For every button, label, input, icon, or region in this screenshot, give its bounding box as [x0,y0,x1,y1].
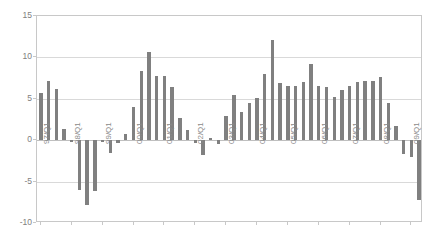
bar [263,74,266,140]
y-axis-ticks [0,15,40,222]
bar [93,140,96,191]
bar [340,90,343,141]
bar [232,95,235,141]
bar [217,140,220,144]
bar [209,138,212,140]
bar [363,81,366,141]
bar [271,40,274,140]
bar [186,130,189,140]
bar [402,140,405,154]
bar [85,140,88,205]
y-axis-tick-mark [33,222,36,223]
x-axis-tick-mark [71,222,72,225]
bar [240,112,243,140]
bar [70,140,73,142]
bar [302,82,305,140]
bar [155,76,158,140]
bar [109,140,112,152]
bar [255,98,258,140]
x-axis-tick-mark [102,222,103,225]
bar [163,76,166,141]
bar [147,52,150,141]
x-axis-tick-mark [133,222,134,225]
bar [248,103,251,140]
bar [116,140,119,142]
bar [47,81,50,141]
bar [278,83,281,140]
gridline [37,57,421,58]
bar [39,93,42,140]
bar [394,126,397,140]
bar [224,116,227,140]
x-axis-tick-mark [225,222,226,225]
bar [132,107,135,140]
bar [309,64,312,140]
bar [356,82,359,140]
bar [325,87,328,140]
bar [178,118,181,140]
bar [417,140,420,200]
x-axis-tick-mark [256,222,257,225]
bar [286,86,289,140]
bar [348,86,351,141]
bar [410,140,413,157]
x-axis-tick-mark [349,222,350,225]
bar [317,86,320,140]
bar [194,140,197,142]
bar [333,97,336,140]
bar [387,103,390,140]
bar [78,140,81,190]
bar [140,71,143,141]
bar [294,86,297,141]
bar [62,129,65,141]
bar [124,134,127,140]
x-axis-tick-mark [287,222,288,225]
plot-area [36,15,422,222]
bar-chart: 151050-5-10 97/Q198/Q199/Q100/Q101/Q102/… [0,0,429,235]
bar [379,77,382,140]
x-axis-tick-mark [163,222,164,225]
x-axis-tick-mark [40,222,41,225]
bar [201,140,204,155]
bar [170,87,173,140]
x-axis-tick-mark [380,222,381,225]
bar [55,89,58,140]
x-axis-tick-mark [318,222,319,225]
x-axis-tick-mark [194,222,195,225]
bar [101,140,104,142]
x-axis-tick-mark [410,222,411,225]
bar [371,81,374,141]
